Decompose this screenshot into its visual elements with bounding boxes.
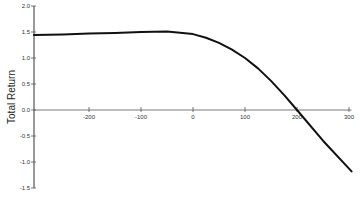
y-tick-label: 0.0 xyxy=(22,107,31,113)
y-tick-label: 0.5 xyxy=(22,81,31,87)
x-tick-label: 300 xyxy=(344,114,355,120)
line-chart: 2.01.51.00.50.0-0.5-1.0-1.5 -200-1000100… xyxy=(0,0,364,197)
y-tick-label: 2.0 xyxy=(22,3,31,9)
y-tick-label: -1.0 xyxy=(20,159,31,165)
data-series xyxy=(34,32,352,172)
series-line xyxy=(34,32,352,172)
x-tick-label: -200 xyxy=(83,114,96,120)
x-axis: -200-1000100200300 xyxy=(34,107,355,120)
x-tick-label: 0 xyxy=(191,114,195,120)
y-axis-title: Total Return xyxy=(6,70,17,124)
y-tick-label: -0.5 xyxy=(20,133,31,139)
y-axis: 2.01.51.00.50.0-0.5-1.0-1.5 xyxy=(20,3,36,191)
y-tick-label: 1.0 xyxy=(22,55,31,61)
y-tick-label: 1.5 xyxy=(22,29,31,35)
x-tick-label: -100 xyxy=(135,114,148,120)
x-tick-label: 100 xyxy=(240,114,251,120)
y-tick-label: -1.5 xyxy=(20,185,31,191)
